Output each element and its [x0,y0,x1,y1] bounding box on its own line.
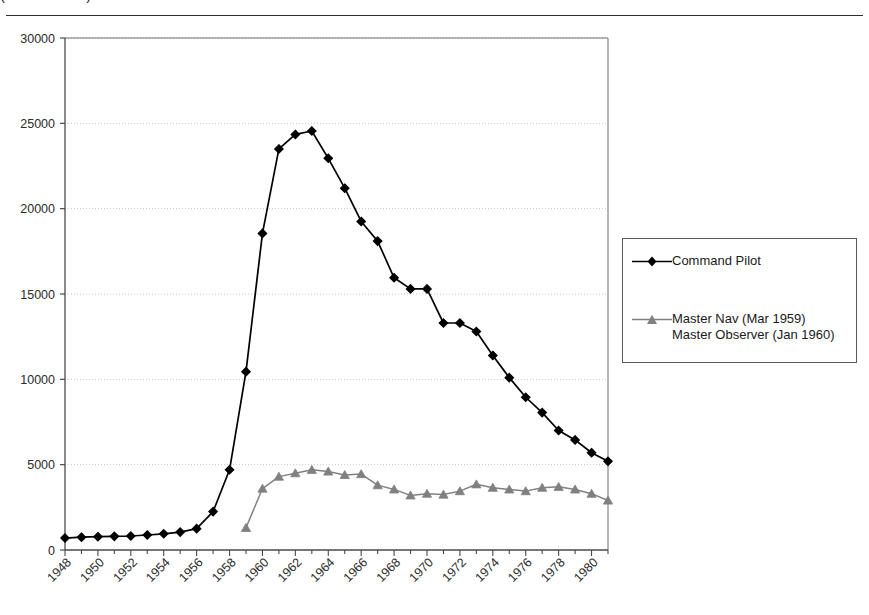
series-marker-0 [341,184,349,192]
legend-item-command-pilot[interactable]: Command Pilot [632,253,761,269]
x-axis-tick-label: 1958 [209,555,239,585]
x-axis-tick-label: 1950 [77,555,107,585]
x-axis-tick-label: 1976 [505,555,535,585]
series-marker-1 [455,487,464,495]
chart-legend: Command Pilot Master Nav (Mar 1959) Mast… [622,238,857,363]
page-title-clip: (1948 - 1980) [0,0,400,8]
series-marker-1 [373,481,382,489]
x-axis-tick-label: 1974 [472,555,502,585]
x-axis-tick-label: 1956 [176,555,206,585]
series-marker-0 [324,154,332,162]
series-marker-0 [176,528,184,536]
series-marker-0 [143,531,151,539]
x-axis-tick-label: 1960 [242,555,272,585]
x-axis-tick-label: 1964 [308,555,338,585]
legend-item-master-nav[interactable]: Master Nav (Mar 1959) Master Observer (J… [632,311,835,343]
title-divider [6,15,863,16]
legend-key-triangle-icon [632,312,672,327]
series-marker-1 [603,496,612,504]
x-axis-tick-label: 1978 [538,555,568,585]
series-marker-0 [308,127,316,135]
series-marker-0 [242,367,250,375]
y-axis-tick-label: 25000 [20,117,55,131]
y-axis-tick-label: 5000 [27,458,55,472]
y-axis-tick-label: 0 [48,544,55,558]
series-marker-0 [439,319,447,327]
x-axis-tick-label: 1954 [143,555,173,585]
legend-key-diamond-icon [632,254,672,269]
x-axis-tick-label: 1962 [275,555,305,585]
x-axis-tick-label: 1970 [407,555,437,585]
series-line-1 [246,470,608,528]
legend-label-master-nav: Master Nav (Mar 1959) Master Observer (J… [672,311,835,343]
series-marker-0 [225,466,233,474]
x-axis-tick-label: 1968 [374,555,404,585]
x-axis-tick-label: 1948 [45,555,75,585]
x-axis-tick-label: 1966 [341,555,371,585]
x-axis-tick-label: 1972 [439,555,469,585]
y-axis-tick-label: 20000 [20,202,55,216]
series-marker-0 [258,229,266,237]
series-marker-1 [472,480,481,488]
x-axis-tick-label: 1952 [110,555,140,585]
series-marker-0 [61,534,69,542]
series-marker-1 [241,523,250,531]
chart-page: (1948 - 1980) 05000100001500020000250003… [0,0,869,615]
series-marker-0 [77,533,85,541]
page-title: (1948 - 1980) [0,0,400,4]
y-axis-tick-label: 10000 [20,373,55,387]
series-marker-0 [423,285,431,293]
y-axis-tick-label: 15000 [20,288,55,302]
series-marker-0 [110,532,118,540]
series-marker-0 [456,319,464,327]
series-marker-0 [94,532,102,540]
series-marker-0 [160,530,168,538]
y-axis-tick-label: 30000 [20,32,55,46]
series-marker-0 [127,532,135,540]
series-line-0 [65,131,608,538]
legend-label-command-pilot: Command Pilot [672,253,761,269]
x-axis-tick-label: 1980 [571,555,601,585]
